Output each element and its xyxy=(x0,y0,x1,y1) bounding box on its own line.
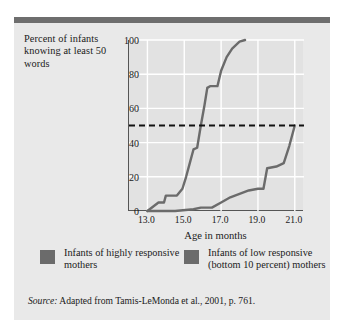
plot-wrapper: 020406080100 13.015.017.019.021.0 Age in… xyxy=(128,40,318,230)
legend-label-low-responsive: Infants of low responsive (bottom 10 per… xyxy=(208,247,330,271)
y-tick-40: 40 xyxy=(129,137,139,148)
legend-swatch-highly-responsive xyxy=(40,250,55,264)
source-text: Adapted from Tamis-LeMonda et al., 2001,… xyxy=(57,295,255,306)
plot-area xyxy=(128,40,303,211)
y-tick-80: 80 xyxy=(129,69,139,80)
x-tick-13.0: 13.0 xyxy=(138,214,155,225)
figure-header-bar xyxy=(14,17,330,23)
x-tick-19.0: 19.0 xyxy=(249,214,266,225)
x-tick-15.0: 15.0 xyxy=(175,214,192,225)
legend-label-highly-responsive: Infants of highly responsive mothers xyxy=(64,247,186,271)
y-axis-caption: Percent of infants knowing at least 50 w… xyxy=(24,33,110,70)
x-tick-21.0: 21.0 xyxy=(285,214,302,225)
chart-canvas xyxy=(129,40,304,211)
y-tick-100: 100 xyxy=(124,35,139,46)
legend-swatch-low-responsive xyxy=(184,250,199,264)
source-label: Source: xyxy=(28,295,57,306)
horizontal-gridlines xyxy=(129,40,304,177)
x-axis-label: Age in months xyxy=(128,230,303,241)
y-tick-60: 60 xyxy=(129,103,139,114)
y-tick-20: 20 xyxy=(129,171,139,182)
figure-card: Percent of infants knowing at least 50 w… xyxy=(14,17,330,320)
x-tick-17.0: 17.0 xyxy=(212,214,229,225)
source-note: Source: Adapted from Tamis-LeMonda et al… xyxy=(28,295,318,306)
